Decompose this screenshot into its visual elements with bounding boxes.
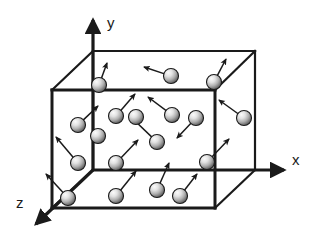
particle-sphere (61, 191, 76, 206)
particle (144, 67, 179, 84)
particle-sphere (207, 75, 222, 90)
particle-sphere (109, 189, 124, 204)
particle-sphere (92, 78, 107, 93)
velocity-arrow (184, 174, 197, 191)
velocity-arrow (120, 140, 138, 159)
velocity-arrow (177, 122, 192, 138)
particle-sphere (173, 189, 188, 204)
particle (219, 100, 252, 126)
figure-canvas: yxz (0, 0, 316, 238)
gas-in-box-figure: yxz (0, 0, 316, 238)
particle-sphere (109, 109, 124, 124)
box-edge-depth-top-left (52, 51, 93, 90)
particle (56, 137, 86, 171)
particle (148, 97, 180, 123)
velocity-arrow (46, 174, 64, 194)
particle (129, 110, 144, 125)
box-edge-depth-bottom-right (215, 170, 255, 208)
particle-sphere (71, 156, 86, 171)
particle-sphere (150, 183, 165, 198)
velocity-arrow (120, 171, 136, 191)
particle-sphere (200, 155, 215, 170)
particle (207, 59, 227, 90)
velocity-arrow (56, 137, 74, 158)
velocity-arrow (82, 106, 98, 121)
particle-sphere (150, 135, 165, 150)
particle-sphere (237, 111, 252, 126)
particle-sphere (109, 156, 124, 171)
particle (150, 163, 170, 198)
particle-sphere (91, 129, 106, 144)
particle (109, 171, 137, 204)
axis-labels: yxz (16, 14, 300, 211)
velocity-arrow (159, 163, 169, 185)
particle-sphere (164, 69, 179, 84)
particle (91, 129, 106, 144)
particle (177, 111, 204, 139)
axis-label-z: z (16, 194, 24, 211)
particle (173, 174, 198, 204)
velocity-arrow (148, 97, 167, 111)
velocity-arrow (120, 94, 135, 111)
velocity-arrow (144, 67, 165, 74)
particle-sphere (165, 108, 180, 123)
axis-label-x: x (292, 151, 300, 168)
particle-sphere (71, 118, 86, 133)
axis-label-y: y (107, 14, 115, 31)
velocity-arrow (217, 59, 226, 77)
velocity-arrow (101, 63, 107, 79)
particle-sphere (189, 111, 204, 126)
particle-sphere (129, 110, 144, 125)
velocity-arrow (219, 100, 239, 114)
particle (109, 140, 139, 171)
